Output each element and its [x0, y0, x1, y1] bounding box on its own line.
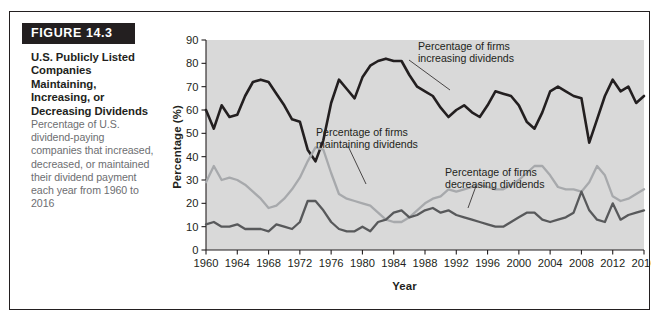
- x-axis-ticks: 1960196419681972197619801984198819921996…: [194, 250, 651, 269]
- x-tick-label: 1968: [256, 257, 281, 269]
- x-tick-label: 1984: [381, 257, 406, 269]
- x-tick-label: 2004: [538, 257, 563, 269]
- figure-description: Percentage of U.S. dividend-paying compa…: [31, 118, 155, 210]
- x-tick-label: 2016: [632, 257, 651, 269]
- y-tick-label: 60: [186, 104, 198, 116]
- chart-area: Percentage (%) Year 0102030405060708090 …: [160, 12, 649, 309]
- annotation-increasing: Percentage of firmsincreasing dividends: [418, 40, 514, 64]
- figure-card: FIGURE 14.3 U.S. Publicly Listed Compani…: [9, 11, 650, 310]
- y-tick-label: 80: [186, 57, 198, 69]
- y-tick-label: 30: [186, 174, 198, 186]
- figure-caption-column: FIGURE 14.3 U.S. Publicly Listed Compani…: [10, 12, 160, 309]
- figure-title: U.S. Publicly Listed Companies Maintaini…: [31, 51, 149, 118]
- x-tick-label: 1976: [319, 257, 344, 269]
- x-tick-label: 2008: [569, 257, 594, 269]
- x-tick-label: 2012: [600, 257, 625, 269]
- x-tick-label: 2000: [506, 257, 531, 269]
- y-axis-ticks: 0102030405060708090: [186, 34, 206, 256]
- y-tick-label: 50: [186, 127, 198, 139]
- y-tick-label: 20: [186, 197, 198, 209]
- annotation-decreasing: Percentage of firmsdecreasing dividends: [445, 166, 545, 190]
- x-tick-label: 1960: [194, 257, 219, 269]
- x-tick-label: 1972: [287, 257, 312, 269]
- figure-number-badge: FIGURE 14.3: [22, 23, 135, 44]
- x-tick-label: 1964: [225, 257, 250, 269]
- y-tick-label: 70: [186, 81, 198, 93]
- y-tick-label: 90: [186, 34, 198, 46]
- x-tick-label: 1996: [475, 257, 500, 269]
- x-tick-label: 1988: [413, 257, 438, 269]
- annotation-maintaining: Percentage of firmsmaintaining dividends: [316, 126, 418, 150]
- line-chart-svg: 0102030405060708090 19601964196819721976…: [160, 12, 651, 311]
- y-tick-label: 0: [192, 244, 198, 256]
- x-tick-label: 1980: [350, 257, 375, 269]
- y-tick-label: 10: [186, 221, 198, 233]
- y-tick-label: 40: [186, 151, 198, 163]
- x-tick-label: 1992: [444, 257, 469, 269]
